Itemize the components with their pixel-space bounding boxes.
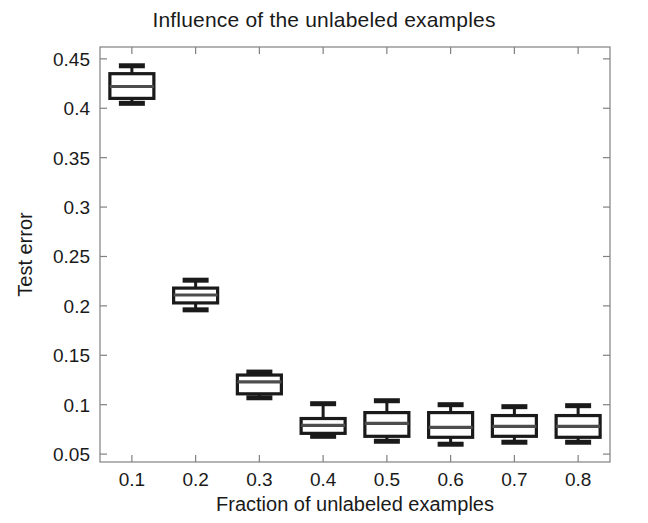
iqr-box bbox=[429, 413, 473, 438]
x-tick-label: 0.4 bbox=[310, 469, 337, 490]
y-tick-label: 0.4 bbox=[64, 98, 91, 119]
box-plot-box bbox=[237, 372, 281, 398]
x-tick-label: 0.7 bbox=[501, 469, 527, 490]
x-tick-label: 0.2 bbox=[182, 469, 208, 490]
y-tick-label: 0.1 bbox=[64, 395, 90, 416]
x-tick-label: 0.6 bbox=[437, 469, 463, 490]
x-tick-label: 0.8 bbox=[565, 469, 591, 490]
x-tick-label: 0.5 bbox=[374, 469, 400, 490]
x-axis-label: Fraction of unlabeled examples bbox=[216, 493, 494, 515]
y-tick-label: 0.15 bbox=[53, 345, 90, 366]
chart-figure: Influence of the unlabeled examples 0.05… bbox=[0, 0, 648, 523]
y-tick-label: 0.3 bbox=[64, 197, 90, 218]
y-axis-label: Test error bbox=[14, 212, 36, 297]
y-tick-label: 0.2 bbox=[64, 296, 90, 317]
axis-frame bbox=[100, 47, 610, 462]
y-tick-label: 0.45 bbox=[53, 49, 90, 70]
y-tick-label: 0.05 bbox=[53, 444, 90, 465]
x-tick-label: 0.1 bbox=[119, 469, 145, 490]
x-tick-label: 0.3 bbox=[246, 469, 272, 490]
y-tick-label: 0.35 bbox=[53, 148, 90, 169]
y-tick-label: 0.25 bbox=[53, 246, 90, 267]
plot-area bbox=[100, 47, 610, 462]
iqr-box bbox=[237, 375, 281, 394]
box-plot-canvas: 0.050.10.150.20.250.30.350.40.45 0.10.20… bbox=[0, 0, 648, 523]
